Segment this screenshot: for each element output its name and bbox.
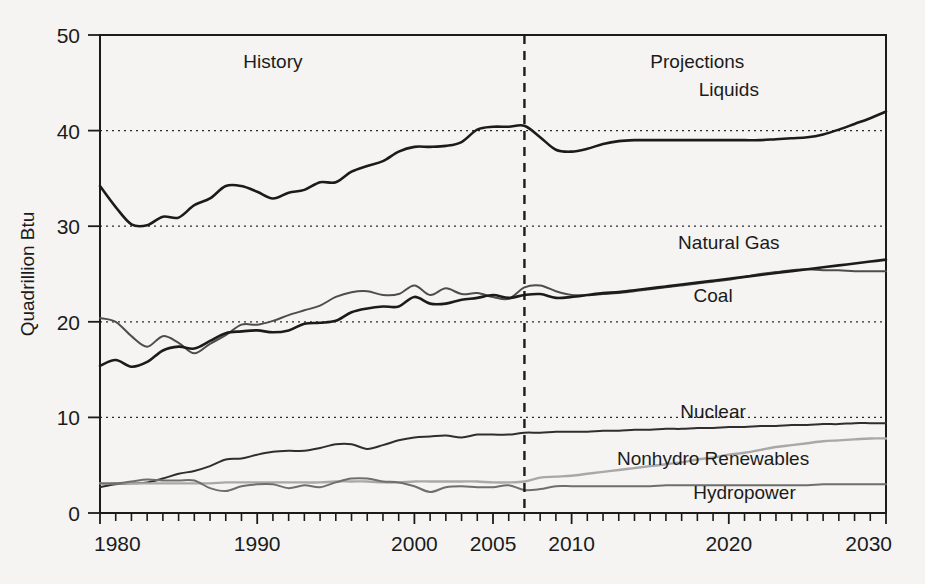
x-tick-label-2010: 2010 — [548, 532, 595, 555]
series-label-coal: Coal — [694, 285, 733, 306]
energy-consumption-by-fuel-chart: 01020304050 1980199020002005201020202030… — [0, 0, 925, 584]
series-label-liquids: Liquids — [699, 79, 759, 100]
y-axis-title: Quadrillion Btu — [17, 212, 38, 337]
y-tick-label-30: 30 — [57, 215, 80, 238]
series-label-nuclear: Nuclear — [680, 401, 746, 422]
y-tick-label-0: 0 — [68, 502, 80, 525]
x-tick-label-2000: 2000 — [391, 532, 438, 555]
series-label-natural-gas: Natural Gas — [678, 232, 779, 253]
y-tick-label-40: 40 — [57, 120, 80, 143]
series-label-nonhydro-renewables: Nonhydro Renewables — [617, 448, 809, 469]
y-tick-label-50: 50 — [57, 24, 80, 47]
annotation-projections: Projections — [650, 51, 744, 72]
x-tick-label-2005: 2005 — [470, 532, 517, 555]
chart-page: 01020304050 1980199020002005201020202030… — [0, 0, 925, 584]
y-tick-label-20: 20 — [57, 311, 80, 334]
y-tick-label-10: 10 — [57, 406, 80, 429]
x-tick-label-2020: 2020 — [705, 532, 752, 555]
x-tick-label-1980: 1980 — [94, 532, 141, 555]
series-label-hydropower: Hydropower — [693, 482, 796, 503]
x-tick-label-1990: 1990 — [234, 532, 281, 555]
annotation-history: History — [243, 51, 303, 72]
x-tick-label-2030: 2030 — [845, 532, 892, 555]
